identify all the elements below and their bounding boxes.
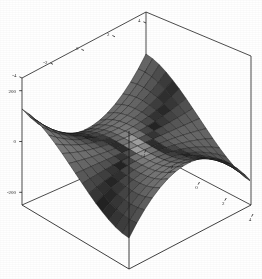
x-axis-tick-label: -2	[168, 169, 173, 174]
surface-plot-figure: -4-2024-4-20242000-200	[0, 0, 262, 279]
y-axis-tick-label: -2	[43, 60, 48, 65]
x-axis-tick-label: -4	[141, 153, 146, 158]
y-axis-tick-label: -4	[12, 73, 17, 78]
z-axis-tick-label: -200	[7, 190, 17, 195]
z-axis-tick-label: 200	[9, 89, 17, 94]
plot-canvas: -4-2024-4-20242000-200	[0, 0, 262, 279]
